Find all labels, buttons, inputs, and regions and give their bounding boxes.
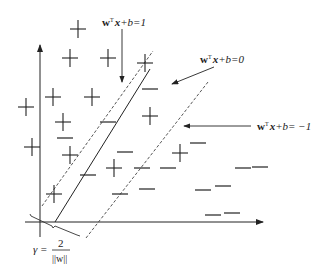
- lower-margin-dashed-line: [86, 82, 208, 238]
- positive-point: [24, 138, 40, 156]
- lower-margin-label: wTx+b= −1: [257, 120, 311, 132]
- hyperplane-line: [55, 69, 150, 222]
- upper-margin-dashed-line: [42, 51, 153, 206]
- upper-margin-label: wTx+b=1: [102, 16, 146, 28]
- positive-point: [62, 146, 78, 164]
- positive-point: [100, 49, 116, 67]
- positive-point: [84, 88, 100, 106]
- negative-points: [57, 89, 268, 215]
- positive-point: [18, 98, 34, 116]
- positive-point: [142, 107, 158, 125]
- positive-point: [46, 185, 62, 203]
- positive-point: [62, 49, 78, 67]
- margin-denominator: ||w||: [52, 253, 67, 264]
- positive-point: [70, 20, 86, 38]
- positive-point: [45, 88, 61, 106]
- margin-brace: [30, 214, 80, 236]
- margin-gamma-label: γ =: [33, 243, 48, 255]
- svm-diagram: wTx+b=1 wTx+b=0 wTx+b= −1 γ = 2 ||w||: [0, 0, 319, 278]
- positive-points: [18, 20, 188, 203]
- positive-point: [55, 113, 71, 131]
- positive-point: [172, 144, 188, 162]
- positive-point: [106, 159, 122, 177]
- hyperplane-label-arrow: [172, 67, 214, 84]
- hyperplane-label: wTx+b=0: [200, 53, 244, 65]
- margin-numerator: 2: [58, 237, 64, 249]
